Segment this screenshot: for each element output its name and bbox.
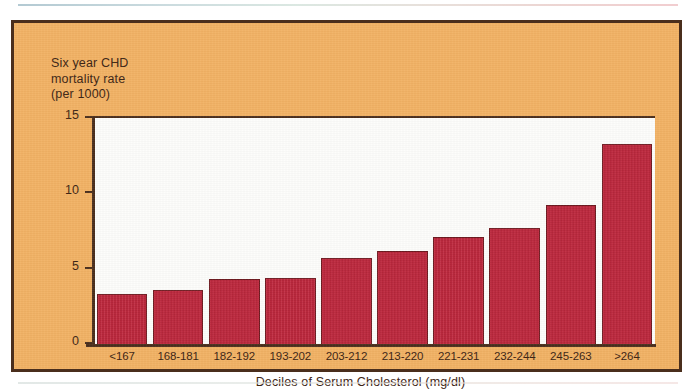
y-tick: 10 xyxy=(85,191,93,193)
x-tick-label: >264 xyxy=(599,350,655,362)
x-tick-label: 182-192 xyxy=(206,350,262,362)
y-tick: 0 xyxy=(85,342,93,344)
x-tick-label: 193-202 xyxy=(262,350,318,362)
bar xyxy=(489,228,540,344)
x-tick-label: 221-231 xyxy=(431,350,487,362)
x-tick-label: <167 xyxy=(94,350,150,362)
y-tick-label: 0 xyxy=(72,334,79,348)
bar xyxy=(321,258,372,344)
chart-plate: Six year CHD mortality rate (per 1000) 0… xyxy=(11,20,682,372)
x-tick-label: 168-181 xyxy=(150,350,206,362)
y-tick-label: 10 xyxy=(65,183,79,197)
bar xyxy=(546,205,597,344)
y-tick: 15 xyxy=(85,116,93,118)
bar xyxy=(602,144,653,344)
x-axis-line xyxy=(86,344,656,347)
x-tick-label: 203-212 xyxy=(318,350,374,362)
y-tick: 5 xyxy=(85,267,93,269)
y-axis-title: Six year CHD mortality rate (per 1000) xyxy=(51,56,221,103)
x-tick-label: 213-220 xyxy=(375,350,431,362)
x-tick-label: 245-263 xyxy=(543,350,599,362)
bar-series xyxy=(94,118,655,344)
bar xyxy=(265,278,316,344)
plot-area: 051015 <167168-181182-192193-202203-2122… xyxy=(94,118,655,344)
bar xyxy=(97,294,148,344)
page-top-rule xyxy=(18,4,678,6)
bar xyxy=(209,279,260,344)
page-bottom-rule xyxy=(18,382,678,384)
bar xyxy=(153,290,204,344)
y-tick-label: 15 xyxy=(65,108,79,122)
bar xyxy=(433,237,484,344)
y-tick-label: 5 xyxy=(72,259,79,273)
x-tick-label: 232-244 xyxy=(487,350,543,362)
bar xyxy=(377,251,428,344)
